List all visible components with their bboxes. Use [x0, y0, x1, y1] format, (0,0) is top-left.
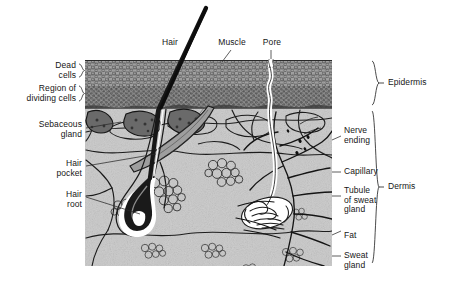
label-fat: Fat	[344, 231, 384, 241]
label-sebaceous-gland: Sebaceous gland	[6, 120, 82, 139]
label-region-of-dividing-cells: Region of dividing cells	[0, 84, 76, 103]
label-hair: Hair	[150, 38, 190, 48]
skin-diagram-figure: Hair Muscle Pore Dead cells Region of di…	[0, 0, 450, 288]
pore-opening	[269, 59, 274, 68]
label-tubule-of-sweat-gland: Tubule of sweat gland	[344, 186, 392, 215]
label-hair-root: Hair root	[22, 190, 82, 209]
label-dead-cells: Dead cells	[6, 61, 76, 80]
label-nerve-ending: Nerve ending	[344, 126, 394, 145]
label-sweat-gland: Sweat gland	[344, 251, 394, 270]
label-pore: Pore	[253, 38, 291, 48]
label-epidermis: Epidermis	[388, 78, 448, 88]
epidermis-layer	[85, 60, 332, 109]
dermis-layer	[85, 108, 332, 277]
label-hair-pocket: Hair pocket	[22, 159, 82, 178]
left-braces	[79, 64, 85, 101]
label-capillary: Capillary	[344, 167, 398, 177]
right-leader-lines	[332, 136, 341, 256]
label-dermis: Dermis	[388, 182, 440, 192]
label-muscle: Muscle	[208, 38, 256, 48]
